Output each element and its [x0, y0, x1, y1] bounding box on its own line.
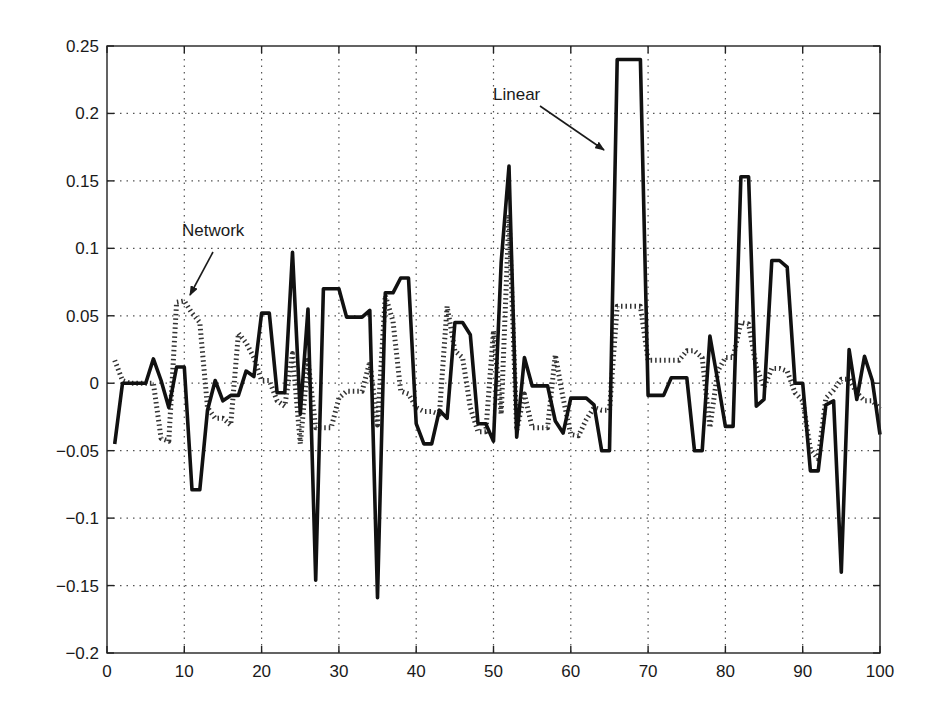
x-tick-label: 20: [252, 662, 271, 681]
y-tick-label: 0.15: [66, 172, 99, 191]
annotation-network: Network: [182, 221, 245, 240]
y-tick-label: 0.2: [75, 104, 99, 123]
y-tick-label: 0.25: [66, 37, 99, 56]
x-tick-label: 80: [716, 662, 735, 681]
line-chart: 0102030405060708090100 0.250.20.150.10.0…: [0, 0, 939, 716]
x-tick-label: 70: [639, 662, 658, 681]
x-tick-label: 60: [561, 662, 580, 681]
y-tick-label: 0.05: [66, 307, 99, 326]
y-tick-label: 0: [90, 374, 99, 393]
chart-background: [0, 0, 939, 716]
x-tick-label: 90: [793, 662, 812, 681]
x-tick-label: 40: [407, 662, 426, 681]
x-tick-label: 10: [175, 662, 194, 681]
x-tick-label: 30: [329, 662, 348, 681]
x-tick-label: 100: [866, 662, 894, 681]
annotation-linear: Linear: [493, 85, 541, 104]
x-tick-label: 50: [484, 662, 503, 681]
x-tick-label: 0: [102, 662, 111, 681]
y-tick-label: −0.05: [56, 442, 99, 461]
y-tick-label: −0.2: [65, 644, 99, 663]
y-tick-label: −0.1: [65, 509, 99, 528]
y-tick-label: 0.1: [75, 239, 99, 258]
y-tick-label: −0.15: [56, 577, 99, 596]
